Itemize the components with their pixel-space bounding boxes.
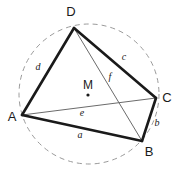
center-point-label: M [83,78,93,92]
vertex-label-c: C [162,90,171,105]
figure-canvas: M A B C D a b c d e f [0,0,182,177]
geometry-figure: M A B C D a b c d e f [0,0,182,177]
side-label-c: c [122,51,127,62]
vertex-label-d: D [66,4,75,19]
vertex-label-b: B [145,144,154,159]
side-label-a: a [78,129,83,140]
center-point-dot [86,93,89,96]
side-label-b: b [155,117,160,128]
diagonal-label-e: e [80,107,85,118]
vertex-label-a: A [8,109,17,124]
